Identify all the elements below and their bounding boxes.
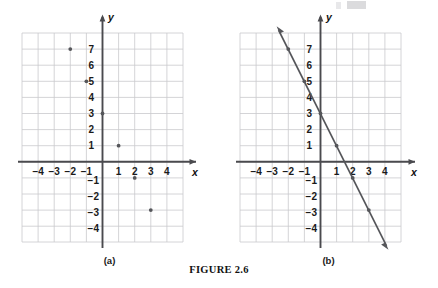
svg-text:−4: −4 [250, 166, 262, 177]
figure-2-6: x y −4 −3 −2 −1 1 2 3 4 7 6 5 4 3 2 1 [0, 0, 438, 288]
svg-text:−1: −1 [88, 175, 100, 186]
svg-text:−2: −2 [65, 166, 77, 177]
svg-text:−4: −4 [32, 166, 44, 177]
svg-text:−4: −4 [306, 223, 318, 234]
svg-text:2: 2 [132, 166, 138, 177]
svg-text:2: 2 [88, 124, 94, 135]
svg-text:−2: −2 [306, 191, 318, 202]
svg-text:−1: −1 [306, 175, 318, 186]
svg-text:1: 1 [306, 140, 312, 151]
svg-text:4: 4 [164, 166, 170, 177]
svg-text:5: 5 [88, 76, 94, 87]
x-axis-b [236, 159, 415, 165]
svg-text:−2: −2 [283, 166, 295, 177]
svg-text:6: 6 [306, 60, 312, 71]
axis-label-y-a: y [107, 11, 115, 23]
svg-text:3: 3 [88, 108, 94, 119]
svg-text:1: 1 [116, 166, 122, 177]
x-tick-labels-a: −4 −3 −2 −1 1 2 3 4 [32, 166, 170, 177]
svg-text:4: 4 [88, 92, 94, 103]
y-axis-b [318, 15, 324, 249]
panel-b: x y −4 −3 −2 −1 1 2 3 4 7 6 5 4 3 2 1 −1 [219, 0, 438, 288]
figure-caption: FIGURE 2.6 [0, 264, 438, 275]
x-axis-a [18, 159, 196, 165]
chart-a: x y −4 −3 −2 −1 1 2 3 4 7 6 5 4 3 2 1 [0, 0, 219, 255]
svg-text:3: 3 [306, 108, 312, 119]
svg-text:−4: −4 [88, 223, 100, 234]
svg-text:2: 2 [306, 124, 312, 135]
svg-text:−3: −3 [48, 166, 60, 177]
chart-b: x y −4 −3 −2 −1 1 2 3 4 7 6 5 4 3 2 1 −1 [219, 0, 438, 255]
line-graph-b [277, 26, 389, 250]
svg-text:−3: −3 [266, 166, 278, 177]
svg-text:7: 7 [306, 44, 312, 55]
svg-text:−3: −3 [88, 207, 100, 218]
svg-text:1: 1 [334, 166, 340, 177]
svg-text:−3: −3 [306, 207, 318, 218]
axis-label-x-b: x [410, 166, 418, 178]
x-tick-labels-b: −4 −3 −2 −1 1 2 3 4 [250, 166, 388, 177]
axis-label-x-a: x [191, 166, 199, 178]
svg-text:3: 3 [366, 166, 372, 177]
axis-label-y-b: y [325, 11, 333, 23]
panel-a: x y −4 −3 −2 −1 1 2 3 4 7 6 5 4 3 2 1 [0, 0, 219, 288]
svg-text:−2: −2 [88, 191, 100, 202]
svg-text:4: 4 [382, 166, 388, 177]
y-tick-labels-b: 7 6 5 4 3 2 1 −1 −2 −3 −4 [306, 44, 318, 235]
y-axis-a [100, 15, 106, 249]
svg-text:3: 3 [148, 166, 154, 177]
svg-text:5: 5 [306, 76, 312, 87]
svg-text:7: 7 [88, 44, 94, 55]
svg-text:1: 1 [88, 140, 94, 151]
y-tick-labels-a: 7 6 5 4 3 2 1 −1 −2 −3 −4 [88, 44, 100, 235]
svg-text:6: 6 [88, 60, 94, 71]
